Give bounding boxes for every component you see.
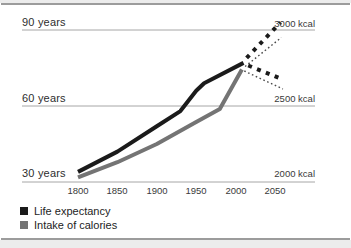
right-axis-label-2500-kcal: 2500 kcal xyxy=(274,93,315,104)
series-line-life-expectancy xyxy=(78,63,244,172)
projection-intake-of-calories-low xyxy=(244,71,283,89)
legend-item-intake-of-calories: Intake of calories xyxy=(20,218,117,232)
legend-label-intake-of-calories: Intake of calories xyxy=(34,219,117,231)
page-bottom-strip xyxy=(0,240,351,248)
legend-item-life-expectancy: Life expectancy xyxy=(20,204,117,218)
legend: Life expectancy Intake of calories xyxy=(20,204,117,232)
x-tick-1850: 1850 xyxy=(97,185,137,196)
x-tick-2050: 2050 xyxy=(255,185,295,196)
right-axis-label-2000-kcal: 2000 kcal xyxy=(274,168,315,179)
life-expectancy-swatch-icon xyxy=(20,207,28,215)
left-axis-label-90-years: 90 years xyxy=(22,16,66,28)
intake-of-calories-swatch-icon xyxy=(20,221,28,229)
right-axis-label-3000-kcal: 3000 kcal xyxy=(274,18,315,29)
x-tick-2000: 2000 xyxy=(216,185,256,196)
left-axis-label-60-years: 60 years xyxy=(22,92,66,104)
x-tick-1800: 1800 xyxy=(58,185,98,196)
chart-area: 90 years 60 years 30 years 3000 kcal 250… xyxy=(0,0,351,248)
left-axis-label-30-years: 30 years xyxy=(22,167,66,179)
projection-life-expectancy-low xyxy=(248,66,283,80)
x-tick-1950: 1950 xyxy=(176,185,216,196)
legend-label-life-expectancy: Life expectancy xyxy=(34,205,110,217)
projection-intake-of-calories-high xyxy=(245,38,281,67)
x-tick-1900: 1900 xyxy=(137,185,177,196)
